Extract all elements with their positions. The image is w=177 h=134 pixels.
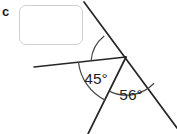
angle-diagram: 45° 56° [0,0,177,134]
unknown-angle-arc [91,36,104,61]
angle-45-label: 45° [84,70,107,87]
line-left-horizontal-ray [34,57,126,67]
angle-56-label: 56° [119,86,142,103]
worksheet-figure-panel: c 45° 56° [0,0,177,134]
line-diagonal-transversal [84,2,177,128]
